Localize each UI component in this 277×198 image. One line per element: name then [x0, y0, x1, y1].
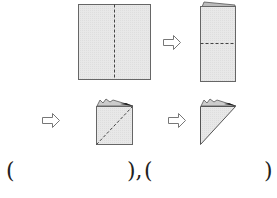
answer-blank-2-close: ) — [264, 160, 273, 182]
step-1-square — [79, 5, 151, 80]
step-3-small-square — [97, 99, 134, 145]
step-2-rectangle — [201, 2, 236, 82]
answer-blank-1-close: ), — [127, 160, 143, 182]
right-arrow-icon — [164, 36, 181, 50]
right-arrow-icon — [43, 114, 60, 128]
answer-blank-1-open: ( — [6, 160, 15, 182]
answer-blank-2-open: ( — [144, 160, 153, 182]
right-arrow-icon — [169, 114, 186, 128]
step-4-triangle — [201, 99, 237, 145]
